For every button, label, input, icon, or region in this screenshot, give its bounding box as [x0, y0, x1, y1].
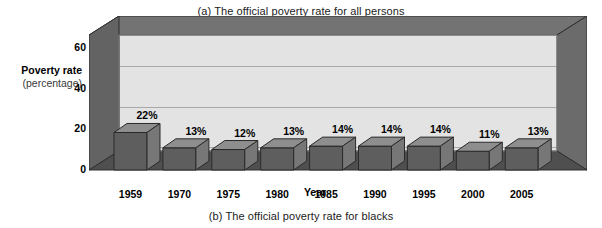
chart-plot-area: 22%13%12%13%14%14%14%11%13% 195919701975… — [89, 16, 587, 188]
bar-value-label: 13% — [509, 125, 567, 137]
y-tick-label-0: 0 — [64, 163, 86, 175]
y-axis-title: Poverty rate — [4, 64, 82, 77]
chart-figure: (a) The official poverty rate for all pe… — [0, 0, 602, 228]
bar-value-label: 22% — [118, 109, 176, 121]
y-tick-label-20: 20 — [64, 122, 86, 134]
figure-caption-bottom: (b) The official poverty rate for blacks — [0, 210, 602, 222]
y-tick-label-40: 40 — [64, 82, 86, 94]
bar-label-layer: 22%13%12%13%14%14%14%11%13% — [89, 16, 587, 188]
x-axis-title: Year — [95, 186, 535, 198]
y-tick-label-60: 60 — [64, 41, 86, 53]
